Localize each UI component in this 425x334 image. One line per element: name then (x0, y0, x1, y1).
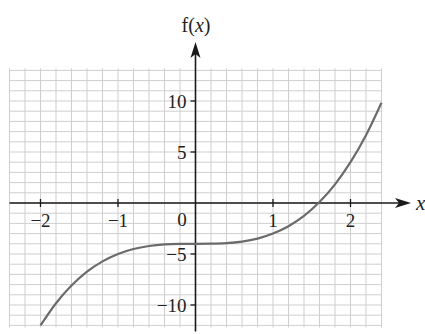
y-tick-label: −10 (157, 295, 187, 316)
x-tick-label: 2 (346, 210, 356, 231)
origin-label: 0 (177, 209, 187, 230)
y-axis-label: f(x) (182, 14, 211, 37)
x-tick-label: −1 (108, 210, 128, 231)
y-tick-label: −5 (166, 244, 186, 265)
cubic-function-chart: −2−112105−5−10 x f(x) 0 (0, 0, 425, 334)
x-axis-label: x (415, 191, 425, 215)
y-tick-label: 5 (177, 142, 187, 163)
x-tick-label: 1 (268, 210, 278, 231)
y-tick-label: 10 (168, 91, 187, 112)
x-tick-label: −2 (30, 210, 50, 231)
